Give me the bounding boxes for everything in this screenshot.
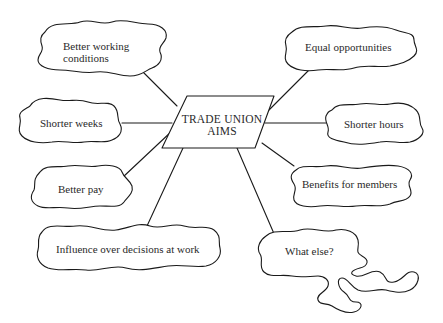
center-label-line1: TRADE UNION — [178, 113, 266, 125]
connector-benefits — [262, 143, 294, 166]
node-label-line1: Better working — [63, 40, 129, 52]
node-benefits: Benefits for members — [302, 178, 397, 190]
node-label-line2: conditions — [63, 52, 129, 64]
connector-influence — [147, 148, 183, 226]
node-shorter-weeks: Shorter weeks — [40, 117, 103, 129]
node-better-working-conditions: Better working conditions — [63, 40, 129, 64]
center-label: TRADE UNION AIMS — [178, 113, 266, 137]
node-equal-opportunities: Equal opportunities — [305, 41, 391, 53]
mind-map-diagram: TRADE UNION AIMS Better working conditio… — [0, 0, 443, 323]
connector-better-pay — [123, 131, 172, 177]
node-shorter-hours: Shorter hours — [344, 118, 404, 130]
cloud-what-else — [258, 229, 418, 313]
connector-what-else — [237, 148, 275, 236]
connector-equal-opportunities — [269, 67, 312, 110]
connector-better-working-conditions — [141, 70, 177, 106]
node-influence: Influence over decisions at work — [56, 243, 200, 255]
center-label-line2: AIMS — [178, 125, 266, 137]
node-what-else: What else? — [285, 245, 334, 257]
node-better-pay: Better pay — [58, 183, 104, 195]
